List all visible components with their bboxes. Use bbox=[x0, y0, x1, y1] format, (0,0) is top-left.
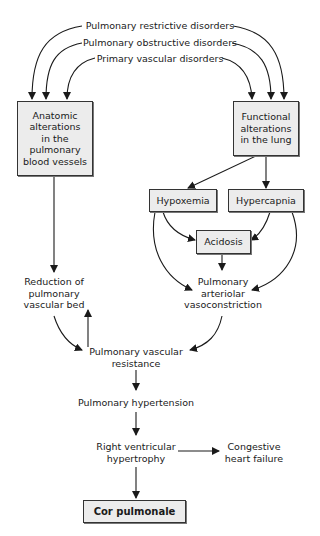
node-cor-pulmonale: Cor pulmonale bbox=[83, 500, 186, 523]
cause-obstructive: Pulmonary obstructive disorders bbox=[83, 37, 237, 49]
line: Anatomic bbox=[33, 110, 78, 122]
node-hypoxemia: Hypoxemia bbox=[149, 189, 217, 212]
node-congestive-heart-failure: Congestive heart failure bbox=[225, 441, 283, 464]
line: vascular bed bbox=[24, 299, 85, 311]
line: blood vessels bbox=[23, 156, 87, 168]
line: vasoconstriction bbox=[184, 299, 262, 311]
line: heart failure bbox=[225, 453, 283, 465]
node-hypercapnia: Hypercapnia bbox=[228, 189, 304, 212]
line: resistance bbox=[89, 358, 183, 370]
line: Functional bbox=[242, 111, 291, 123]
line: Pulmonary vascular bbox=[89, 346, 183, 358]
node-functional-alterations: Functional alterations in the lung bbox=[233, 101, 299, 156]
line: pulmonary bbox=[29, 144, 80, 156]
line: in the lung bbox=[240, 134, 291, 146]
line: alterations bbox=[241, 123, 292, 135]
node-vascular-resistance: Pulmonary vascular resistance bbox=[89, 346, 183, 369]
node-pulmonary-hypertension: Pulmonary hypertension bbox=[78, 397, 194, 409]
line: Reduction of bbox=[24, 276, 85, 288]
cause-restrictive: Pulmonary restrictive disorders bbox=[86, 20, 234, 32]
node-right-ventricular-hypertrophy: Right ventricular hypertrophy bbox=[96, 441, 175, 464]
line: pulmonary bbox=[24, 288, 85, 300]
line: alterations bbox=[30, 121, 81, 133]
line: Congestive bbox=[225, 441, 283, 453]
line: in the bbox=[41, 133, 68, 145]
node-anatomic-alterations: Anatomic alterations in the pulmonary bl… bbox=[17, 101, 93, 176]
node-arteriolar-vasoconstriction: Pulmonary arteriolar vasoconstriction bbox=[184, 276, 262, 311]
node-acidosis: Acidosis bbox=[196, 230, 251, 254]
node-reduction-vascular-bed: Reduction of pulmonary vascular bed bbox=[24, 276, 85, 311]
line: hypertrophy bbox=[96, 453, 175, 465]
line: Pulmonary bbox=[184, 276, 262, 288]
cause-vascular: Primary vascular disorders bbox=[97, 53, 224, 65]
line: arteriolar bbox=[184, 288, 262, 300]
line: Right ventricular bbox=[96, 441, 175, 453]
